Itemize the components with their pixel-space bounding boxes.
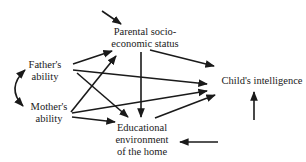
arrow-ses-to-child <box>150 50 214 66</box>
correlation-father-mother <box>15 70 25 106</box>
node-father-line-2: ability <box>29 71 62 83</box>
node-ses-line-2: economic status <box>111 38 178 50</box>
arrow-father-to-child <box>73 70 207 84</box>
node-parental-ses: Parental socio- economic status <box>111 26 178 50</box>
node-child-line-1: Child's intelligence <box>222 75 303 87</box>
arrow-father-to-ses <box>73 51 112 64</box>
arrow-mother-to-ses <box>71 56 116 112</box>
node-env-line-3: of the home <box>115 146 168 158</box>
arrow-mother-to-child <box>72 91 207 113</box>
node-father-line-1: Father's <box>29 59 62 71</box>
node-env-line-2: environment <box>115 134 168 146</box>
node-father-ability: Father's ability <box>29 59 62 83</box>
node-env-line-1: Educational <box>115 122 168 134</box>
node-mother-line-2: ability <box>31 113 68 125</box>
node-mother-line-1: Mother's <box>31 101 68 113</box>
node-educational-environment: Educational environment of the home <box>115 122 168 158</box>
arrow-mother-to-env <box>72 117 115 122</box>
node-mother-ability: Mother's ability <box>31 101 68 125</box>
path-diagram: Father's ability Mother's ability Parent… <box>0 0 306 162</box>
node-child-intelligence: Child's intelligence <box>222 75 303 87</box>
residual-arrow-ses <box>102 11 121 24</box>
node-ses-line-1: Parental socio- <box>111 26 178 38</box>
